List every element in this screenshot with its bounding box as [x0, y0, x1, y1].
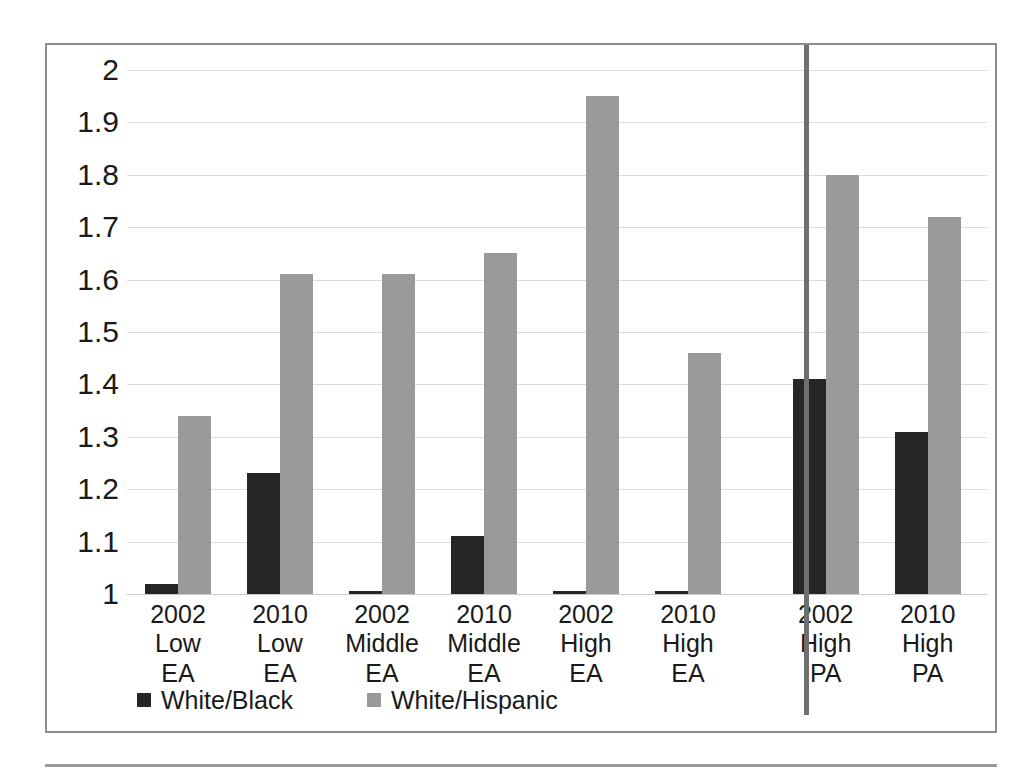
legend-item[interactable]: White/Hispanic — [367, 688, 558, 713]
x-axis-tick-label-line: EA — [637, 659, 739, 688]
bar-white-black — [553, 591, 586, 594]
bars-layer — [127, 70, 987, 594]
y-axis-tick-label: 1.5 — [49, 317, 119, 347]
y-axis-tick-label: 1.6 — [49, 265, 119, 295]
bar-group — [433, 70, 535, 594]
y-axis-tick-label: 1.4 — [49, 369, 119, 399]
bar-group — [535, 70, 637, 594]
bar-group — [877, 70, 979, 594]
x-axis-tick-label-line: 2010 Low — [229, 600, 331, 659]
y-axis-tick-label: 1.1 — [49, 527, 119, 557]
bar-white-black — [349, 591, 382, 594]
legend-swatch-icon — [367, 693, 381, 707]
y-axis-tick-label: 1.9 — [49, 107, 119, 137]
bar-group — [229, 70, 331, 594]
x-axis-tick-label: 2010 HighEA — [637, 600, 739, 688]
bar-white-black — [145, 584, 178, 594]
bar-white-hispanic — [178, 416, 211, 594]
y-axis-tick-label: 1.2 — [49, 474, 119, 504]
x-axis-tick-label-line: PA — [877, 659, 979, 688]
x-axis-tick-label-line: EA — [127, 659, 229, 688]
group-separator-line — [804, 45, 809, 715]
bar-white-hispanic — [928, 217, 961, 594]
legend-item[interactable]: White/Black — [137, 688, 293, 713]
plot-area — [127, 70, 987, 594]
x-axis-category-labels: 2002 LowEA2010 LowEA2002Middle EA2010Mid… — [127, 600, 987, 676]
bar-white-black — [247, 473, 280, 594]
x-axis-tick-label: 2002 LowEA — [127, 600, 229, 688]
bar-white-black — [793, 379, 826, 594]
bar-white-hispanic — [688, 353, 721, 594]
x-axis-tick-label-line: 2002 High — [775, 600, 877, 659]
bar-group — [775, 70, 877, 594]
y-axis-tick-label: 2 — [49, 55, 119, 85]
y-axis: 21.91.81.71.61.51.41.31.21.11 — [47, 70, 119, 594]
bar-group — [331, 70, 433, 594]
chart-frame: 21.91.81.71.61.51.41.31.21.11 2002 LowEA… — [45, 43, 997, 733]
legend-label: White/Hispanic — [391, 688, 558, 713]
bar-white-hispanic — [280, 274, 313, 594]
x-axis-tick-label: 2010 LowEA — [229, 600, 331, 688]
x-axis-tick-label-line: EA — [229, 659, 331, 688]
bar-white-hispanic — [484, 253, 517, 594]
gridline — [127, 594, 987, 595]
bar-group — [127, 70, 229, 594]
bar-white-hispanic — [826, 175, 859, 594]
x-axis-tick-label-line: 2002 — [331, 600, 433, 629]
bar-white-black — [451, 536, 484, 594]
x-axis-tick-label: 2010Middle EA — [433, 600, 535, 688]
x-axis-tick-label-line: PA — [775, 659, 877, 688]
x-axis-tick-label-line: Middle EA — [331, 629, 433, 688]
x-axis-tick-label-line: EA — [535, 659, 637, 688]
x-axis-tick-label-line: 2002 High — [535, 600, 637, 659]
y-axis-tick-label: 1.3 — [49, 422, 119, 452]
bar-white-hispanic — [586, 96, 619, 594]
y-axis-tick-label: 1.8 — [49, 160, 119, 190]
x-axis-tick-label-line: 2002 Low — [127, 600, 229, 659]
y-axis-tick-label: 1.7 — [49, 212, 119, 242]
bar-white-black — [655, 591, 688, 594]
x-axis-tick-label: 2002 HighEA — [535, 600, 637, 688]
bar-white-black — [895, 432, 928, 594]
x-axis-tick-label-line: 2010 High — [877, 600, 979, 659]
bar-white-hispanic — [382, 274, 415, 594]
bottom-divider-rule — [45, 764, 997, 767]
y-axis-tick-label: 1 — [49, 579, 119, 609]
x-axis-tick-label: 2010 HighPA — [877, 600, 979, 688]
legend-label: White/Black — [161, 688, 293, 713]
x-axis-tick-label-line: 2010 — [433, 600, 535, 629]
x-axis-tick-label-line: 2010 High — [637, 600, 739, 659]
x-axis-tick-label-line: Middle EA — [433, 629, 535, 688]
x-axis-tick-label: 2002Middle EA — [331, 600, 433, 688]
bar-group — [637, 70, 739, 594]
legend-swatch-icon — [137, 693, 151, 707]
x-axis-tick-label: 2002 HighPA — [775, 600, 877, 688]
